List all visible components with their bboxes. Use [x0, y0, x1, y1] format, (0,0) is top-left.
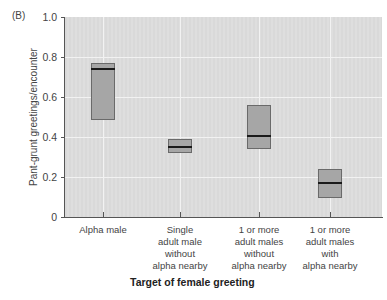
- x-axis: [64, 217, 383, 218]
- xtick-3: [259, 212, 260, 217]
- median-line-3: [247, 135, 271, 137]
- box-3: [247, 105, 271, 149]
- x-axis-label: Target of female greeting: [130, 276, 255, 288]
- ytick-label-0-8: 0.8: [42, 51, 57, 63]
- gridline-0-8: [65, 57, 382, 58]
- xtick-label-3: 1 or more adult males without alpha near…: [221, 224, 297, 272]
- ytick-0-4: [61, 137, 65, 138]
- gridline-0-4: [65, 137, 382, 138]
- ytick-0-6: [61, 97, 65, 98]
- ytick-0-2: [61, 177, 65, 178]
- ytick-0: [61, 217, 65, 218]
- median-line-4: [318, 182, 342, 184]
- panel-label: (B): [12, 10, 25, 21]
- median-line-2: [168, 146, 192, 148]
- ytick-0-8: [61, 57, 65, 58]
- ytick-label-1-0: 1.0: [42, 11, 57, 23]
- xtick-2: [180, 212, 181, 217]
- y-axis: [64, 17, 65, 218]
- box-1: [91, 63, 115, 120]
- ytick-label-0-6: 0.6: [42, 91, 57, 103]
- xtick-label-2: Single adult male without alpha nearby: [142, 224, 218, 272]
- ytick-label-0: 0: [51, 211, 57, 223]
- ytick-label-0-2: 0.2: [42, 171, 57, 183]
- xtick-4: [330, 212, 331, 217]
- xtick-label-4: 1 or more adult males with alpha nearby: [292, 224, 368, 272]
- xtick-label-1: Alpha male: [65, 224, 141, 236]
- median-line-1: [91, 68, 115, 70]
- vgridline-2: [180, 17, 181, 217]
- ytick-1-0: [61, 17, 65, 18]
- xtick-1: [103, 212, 104, 217]
- y-axis-label: Pant-grunt greetings/encounter: [28, 48, 39, 186]
- ytick-label-0-4: 0.4: [42, 131, 57, 143]
